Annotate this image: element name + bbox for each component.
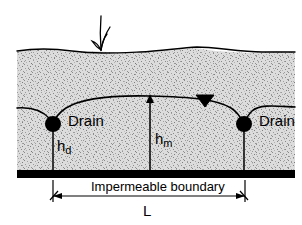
hm-label-subscript: m	[163, 137, 172, 149]
hd-label-subscript: d	[65, 144, 71, 156]
hm-label: hm	[155, 131, 173, 146]
impermeable-boundary-label: Impermeable boundary	[91, 180, 225, 193]
drain-label-left: Drain	[68, 113, 104, 128]
impermeable-boundary-bar	[17, 170, 295, 178]
drainage-cross-section-figure: Drain Drain hd hm Impermeable boundary L	[0, 0, 302, 225]
grass-tuft	[92, 16, 110, 50]
drain-pipe-right	[236, 116, 252, 132]
soil-hatch-region	[17, 48, 295, 178]
drain-label-right: Drain	[259, 113, 295, 128]
drain-pipe-left	[45, 116, 61, 132]
hd-label: hd	[57, 138, 71, 153]
spacing-label-L: L	[143, 203, 151, 218]
